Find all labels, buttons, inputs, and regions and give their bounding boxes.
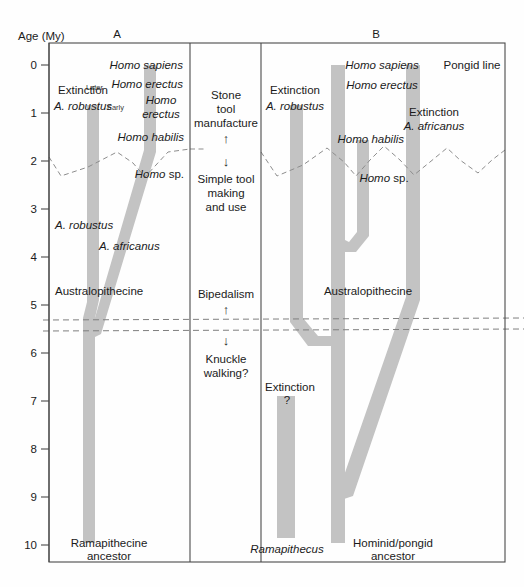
y-axis-ticks <box>41 65 49 545</box>
panel-a-homo-sapiens-label: Homo sapiens <box>109 59 183 72</box>
y-tick-label-2: 2 <box>31 155 37 167</box>
panel-b-homo-habilis-label: Homo habilis <box>338 133 404 146</box>
y-tick-label-10: 10 <box>24 539 37 551</box>
panel-b-extinction-rama-question: ? <box>284 394 290 407</box>
middle-simple-tool-line1: Simple tool <box>198 173 255 186</box>
panel-b-homo-sapiens-label: Homo sapiens <box>345 59 419 72</box>
lineage-bar-ramapithecus <box>277 396 295 538</box>
marker-dashed-line-upper <box>43 318 524 320</box>
panel-b-australopithecine-label: Australopithecine <box>324 285 412 298</box>
y-tick-label-5: 5 <box>31 299 37 311</box>
middle-simple-tool-line2: making <box>207 187 244 200</box>
panel-b-extinction-rama-label: Extinction <box>265 381 315 394</box>
panel-a-a-robustus-mid-label: A. robustus <box>55 219 113 232</box>
marker-dashed-line-lower <box>43 329 524 331</box>
panel-a-extinction-label: Extinction <box>58 84 108 97</box>
lineage-bar-a-africanus <box>345 140 369 252</box>
y-axis-title: Age (My) <box>18 30 65 43</box>
panel-b-root-label-line2: ancestor <box>371 550 415 563</box>
panel-a-homo-sp-label: Homo sp. <box>135 168 184 181</box>
panel-b-extinction-africanus-label: Extinction <box>409 106 459 119</box>
panel-a-homo-habilis-label: Homo habilis <box>118 131 184 144</box>
panel-a-homo-erectus-early-line1: Homo <box>146 94 177 107</box>
middle-stone-tool-line1: Stone <box>211 89 241 102</box>
middle-simple-tool-line3: and use <box>206 201 247 214</box>
middle-stone-tool-line3: manufacture <box>194 117 258 130</box>
panel-a-homo-sp-epithet: sp. <box>169 168 184 180</box>
y-tick-label-8: 8 <box>31 443 37 455</box>
y-tick-label-6: 6 <box>31 347 37 359</box>
middle-bipedalism-label: Bipedalism <box>198 288 254 301</box>
panel-b-a-robustus-label: A. robustus <box>266 100 324 113</box>
marker-dashed-lines <box>43 318 524 331</box>
zigzag-boundary-line <box>49 146 505 177</box>
panel-b-label: B <box>372 28 380 41</box>
panel-a-a-africanus-label: A. africanus <box>99 240 160 253</box>
panel-a-australopithecine-label: Australopithecine <box>55 285 143 298</box>
middle-knuckle-line1: Knuckle <box>206 353 247 366</box>
lineage-bar-hominid-pongid-ancestor <box>331 494 345 543</box>
lineage-bar-a-robustus <box>290 105 331 346</box>
panel-b-homo-sp-epithet: sp. <box>393 172 408 184</box>
panel-a-homo-erectus-later-label: Homo erectus <box>111 78 183 91</box>
y-tick-label-0: 0 <box>31 59 37 71</box>
panel-b-homo-sp-label: Homo sp. <box>359 172 408 185</box>
phylogeny-figure: Age (My) 0 1 2 3 4 5 6 7 8 9 10 A B Homo… <box>0 0 524 587</box>
lineage-bar-australopithecine-stem <box>331 318 345 498</box>
panel-a-homo-sp-genus: Homo <box>135 168 166 180</box>
middle-knuckle-line2: walking? <box>204 367 249 380</box>
y-tick-label-3: 3 <box>31 203 37 215</box>
arrow-up-icon-bipedalism: ↑ <box>223 303 230 316</box>
lineage-bar-ramapithecine-ancestor <box>83 330 95 543</box>
panel-b-root-label-line1: Hominid/pongid <box>353 537 433 550</box>
panel-a-root-label-line1: Ramapithecine <box>71 537 148 550</box>
arrow-up-icon-stone-tool: ↑ <box>223 132 230 145</box>
y-tick-label-7: 7 <box>31 395 37 407</box>
panel-a-label: A <box>113 28 121 41</box>
y-tick-label-1: 1 <box>31 107 37 119</box>
y-tick-label-9: 9 <box>31 491 37 503</box>
panel-a-root-label-line2: ancestor <box>87 550 131 563</box>
panel-b-homo-sp-genus: Homo <box>359 172 390 184</box>
arrow-down-icon-simple-tool: ↓ <box>223 155 230 168</box>
arrow-down-icon-knuckle: ↓ <box>223 334 230 347</box>
panel-b-extinction-robustus-label: Extinction <box>270 84 320 97</box>
panel-a-homo-erectus-early-line2: erectus <box>142 108 180 121</box>
y-tick-label-4: 4 <box>31 251 37 263</box>
panel-b-ramapithecus-label: Ramapithecus <box>250 543 324 556</box>
panel-a-a-robustus-top-label: A. robustus <box>54 100 112 113</box>
panel-b-pongid-line-label: Pongid line <box>444 59 501 72</box>
middle-stone-tool-line2: tool <box>217 103 236 116</box>
panel-b-homo-erectus-label: Homo erectus <box>346 79 418 92</box>
panel-b-a-africanus-label: A. africanus <box>404 120 465 133</box>
lineage-bar-homo-line <box>331 65 345 320</box>
